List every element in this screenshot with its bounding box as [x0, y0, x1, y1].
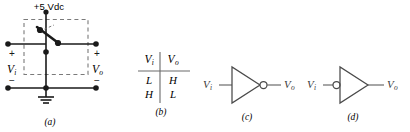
- input-minus-sign: −: [9, 76, 15, 86]
- panel-c-output-subscript: o: [291, 83, 295, 92]
- output-minus-sign: −: [94, 76, 100, 86]
- panel-c-input-subscript: i: [210, 83, 212, 92]
- inversion-bubble-icon: [333, 82, 340, 89]
- panel-d-caption: (d): [347, 113, 358, 123]
- output-voltage-label: Vo: [92, 64, 103, 76]
- panel-d-inverter-input-bubble: Vi Vo (d): [305, 0, 410, 132]
- panel-a-caption: (a): [44, 118, 55, 128]
- table-header-output-symbol: V: [168, 53, 175, 65]
- table-header-input-symbol: V: [144, 53, 151, 65]
- table-header-output: Vo: [168, 54, 179, 66]
- inverter-triangle-icon: [340, 67, 368, 103]
- panel-a-schematic: [0, 0, 130, 132]
- panel-c-output-label: Vo: [284, 79, 294, 90]
- input-plus-terminal-dot: [5, 41, 11, 47]
- panel-d-input-label: Vi: [307, 79, 316, 90]
- table-row-1-input: H: [145, 89, 153, 100]
- panel-b-truth-table: Vi Vo L H H L (b): [130, 0, 200, 132]
- panel-d-output-label: Vo: [387, 79, 397, 90]
- input-plus-sign: +: [9, 49, 15, 59]
- panel-a-switch-circuit: +5 Vdc + Vi − + Vo − (a): [0, 0, 130, 132]
- panel-c-inverter-output-bubble: Vi Vo (c): [200, 0, 305, 132]
- switch-pivot-dot: [37, 27, 43, 33]
- panel-c-input-label: Vi: [203, 79, 212, 90]
- output-voltage-symbol: V: [92, 63, 99, 75]
- spdt-switch-icon[interactable]: [37, 25, 61, 46]
- figure-root: +5 Vdc + Vi − + Vo − (a) Vi Vo L H H L (…: [0, 0, 410, 132]
- dashed-enclosure: [24, 20, 88, 75]
- panel-d-input-symbol: V: [307, 78, 314, 90]
- input-minus-terminal-dot: [5, 85, 11, 91]
- input-voltage-symbol: V: [7, 63, 14, 75]
- output-plus-terminal-dot: [93, 41, 99, 47]
- table-row-1-output: L: [170, 89, 176, 100]
- panel-c-output-symbol: V: [284, 78, 291, 90]
- switch-contact-dot: [55, 40, 61, 46]
- panel-c-caption: (c): [242, 113, 253, 123]
- output-plus-sign: +: [94, 49, 100, 59]
- table-header-output-subscript: o: [175, 58, 179, 67]
- ground-icon: [38, 88, 54, 103]
- table-row-0-output: H: [169, 75, 177, 86]
- input-voltage-label: Vi: [7, 64, 16, 76]
- panel-d-output-symbol: V: [387, 78, 394, 90]
- panel-d-output-subscript: o: [394, 83, 398, 92]
- output-minus-terminal-dot: [93, 85, 99, 91]
- panel-c-input-symbol: V: [203, 78, 210, 90]
- center-branch-dot: [43, 49, 49, 55]
- inversion-bubble-icon: [260, 82, 267, 89]
- supply-voltage-label: +5 Vdc: [34, 2, 64, 12]
- table-row-0-input: L: [146, 75, 152, 86]
- inverter-triangle-icon: [232, 67, 260, 103]
- panel-b-caption: (b): [155, 108, 166, 118]
- table-header-input: Vi: [144, 54, 153, 66]
- panel-d-input-subscript: i: [314, 83, 316, 92]
